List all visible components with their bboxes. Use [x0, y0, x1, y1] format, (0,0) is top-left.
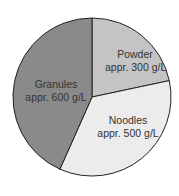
label-granules-value: appr. 600 g/L — [22, 91, 90, 104]
label-powder-name: Powder — [105, 48, 165, 61]
label-granules-name: Granules — [22, 78, 90, 91]
label-noodles-value: appr. 500 g/L — [94, 127, 162, 140]
label-granules: Granules appr. 600 g/L — [22, 78, 90, 104]
label-powder-value: appr. 300 g/L — [105, 61, 165, 74]
label-noodles: Noodles appr. 500 g/L — [94, 114, 162, 140]
label-noodles-name: Noodles — [94, 114, 162, 127]
label-powder: Powder appr. 300 g/L — [105, 48, 165, 74]
